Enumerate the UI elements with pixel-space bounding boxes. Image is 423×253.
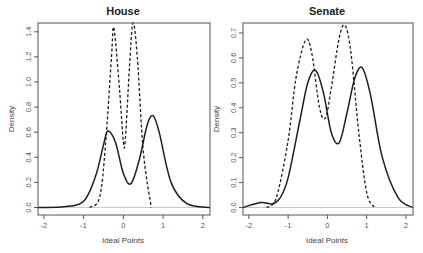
chart-canvas: House0.00.20.40.60.81.01.21.4-2-1012Idea… <box>0 0 423 253</box>
y-tick-label: 1.0 <box>24 77 33 87</box>
x-tick-label: 2 <box>404 221 408 230</box>
y-axis-label: Density <box>212 106 221 133</box>
x-axis-label: Ideal Points <box>102 236 144 245</box>
plot-frame <box>38 23 210 215</box>
y-tick-label: 0.6 <box>24 127 33 137</box>
senate-panel: Senate0.00.10.20.30.40.50.60.7-2-1012Ide… <box>212 5 413 245</box>
density-curve-dashed <box>267 25 375 208</box>
x-tick-label: 1 <box>161 221 165 230</box>
x-tick-label: -1 <box>285 221 292 230</box>
y-tick-label: 0.6 <box>229 53 238 63</box>
y-tick-label: 1.2 <box>24 52 33 62</box>
x-tick-label: -2 <box>41 221 48 230</box>
density-curve-solid <box>243 67 413 207</box>
y-tick-label: 0.0 <box>24 202 33 212</box>
x-tick-label: 0 <box>121 221 125 230</box>
y-tick-label: 0.2 <box>24 177 33 187</box>
y-tick-label: 0.0 <box>229 202 238 212</box>
y-tick-label: 0.5 <box>229 78 238 88</box>
y-tick-label: 0.4 <box>24 152 33 162</box>
y-tick-label: 0.8 <box>24 102 33 112</box>
x-tick-label: 0 <box>325 221 329 230</box>
x-tick-label: -1 <box>80 221 87 230</box>
y-tick-label: 0.3 <box>229 127 238 137</box>
y-tick-label: 0.2 <box>229 152 238 162</box>
density-curve-solid <box>38 116 210 208</box>
x-tick-label: 2 <box>201 221 205 230</box>
y-tick-label: 0.4 <box>229 103 238 113</box>
x-tick-label: 1 <box>365 221 369 230</box>
y-tick-label: 0.7 <box>229 28 238 38</box>
chart-title: House <box>106 5 140 17</box>
house-panel: House0.00.20.40.60.81.01.21.4-2-1012Idea… <box>7 5 210 245</box>
x-axis-label: Ideal Points <box>306 236 348 245</box>
y-axis-label: Density <box>7 106 16 133</box>
density-curve-dashed <box>90 23 152 208</box>
y-tick-label: 0.1 <box>229 177 238 187</box>
y-tick-label: 1.4 <box>24 27 33 37</box>
x-tick-label: -2 <box>246 221 253 230</box>
chart-title: Senate <box>309 5 345 17</box>
